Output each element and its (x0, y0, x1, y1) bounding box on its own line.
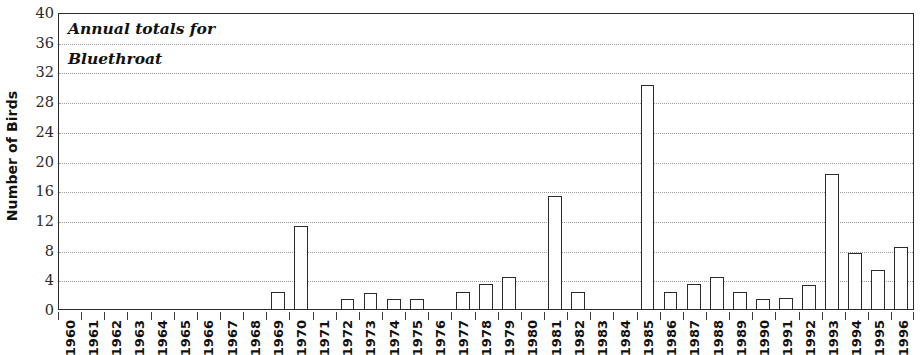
x-tick-label-text: 1971 (318, 320, 331, 355)
x-tick (428, 310, 451, 320)
x-tick (104, 310, 127, 320)
x-tick-label-text: 1974 (387, 320, 400, 355)
x-tick (81, 310, 104, 320)
bar (802, 285, 816, 310)
x-tick-label-text: 1967 (225, 320, 238, 355)
x-tick-label-text: 1991 (780, 320, 793, 355)
x-tick-label-text: 1978 (480, 320, 493, 355)
x-tick-label-text: 1986 (665, 320, 678, 355)
x-tick-label: 1977 (451, 320, 474, 355)
x-tick (660, 310, 683, 320)
x-tick-label: 1962 (104, 320, 127, 355)
bar (779, 298, 793, 309)
x-tick-label-text: 1969 (271, 320, 284, 355)
x-tick-label: 1966 (197, 320, 220, 355)
x-tick (475, 310, 498, 320)
bar (479, 284, 493, 309)
bar (894, 247, 908, 309)
x-tick-label: 1973 (359, 320, 382, 355)
bar-slot (613, 14, 636, 309)
x-tick-label-text: 1976 (433, 320, 446, 355)
bar-slot (590, 14, 613, 309)
x-tick-label-text: 1975 (410, 320, 423, 355)
bar (502, 277, 516, 309)
x-tick-label-text: 1994 (850, 320, 863, 355)
x-tick-label: 1980 (521, 320, 544, 355)
y-tick-label: 36 (36, 35, 54, 50)
x-tick-label: 1963 (127, 320, 150, 355)
y-axis-title: Number of Birds (0, 0, 24, 312)
x-tick-label-text: 1973 (364, 320, 377, 355)
x-tick-label-text: 1981 (549, 320, 562, 355)
bar (733, 292, 747, 309)
x-tick (451, 310, 474, 320)
x-tick-label-text: 1983 (595, 320, 608, 355)
x-tick-label: 1976 (428, 320, 451, 355)
x-tick (220, 310, 243, 320)
y-tick-label: 16 (36, 184, 54, 199)
y-tick-label: 32 (36, 65, 54, 80)
x-tick-label: 1981 (544, 320, 567, 355)
x-tick-label-text: 1979 (503, 320, 516, 355)
bar-slot (474, 14, 497, 309)
x-axis-ticks (58, 310, 914, 320)
x-tick-label-text: 1995 (873, 320, 886, 355)
x-tick (868, 310, 891, 320)
bar-slot (890, 14, 913, 309)
x-tick (799, 310, 822, 320)
x-tick (613, 310, 636, 320)
x-tick-label: 1964 (151, 320, 174, 355)
x-tick-label: 1968 (243, 320, 266, 355)
x-tick-label: 1991 (775, 320, 798, 355)
y-axis-title-label: Number of Birds (4, 91, 20, 221)
x-tick (891, 310, 914, 320)
bar-slot (544, 14, 567, 309)
bar-slot (751, 14, 774, 309)
x-tick-label-text: 1966 (202, 320, 215, 355)
y-tick-label: 40 (36, 6, 54, 21)
bar (364, 293, 378, 309)
x-tick-label: 1971 (313, 320, 336, 355)
y-tick-label: 20 (36, 154, 54, 169)
x-tick-label-text: 1965 (179, 320, 192, 355)
bar-slot (682, 14, 705, 309)
x-tick-label: 1965 (174, 320, 197, 355)
x-tick-label-text: 1980 (526, 320, 539, 355)
y-tick-label: 28 (36, 95, 54, 110)
x-tick (567, 310, 590, 320)
x-tick-label: 1992 (799, 320, 822, 355)
bar (387, 299, 401, 309)
x-tick-label-text: 1992 (804, 320, 817, 355)
bar (664, 292, 678, 309)
bar (341, 299, 355, 309)
x-tick-label: 1974 (382, 320, 405, 355)
x-tick-label-text: 1982 (572, 320, 585, 355)
x-tick-label: 1994 (845, 320, 868, 355)
x-tick (752, 310, 775, 320)
bar (548, 196, 562, 309)
x-tick (174, 310, 197, 320)
x-tick-label-text: 1984 (618, 320, 631, 355)
x-tick-label-text: 1985 (642, 320, 655, 355)
x-tick-label-text: 1960 (63, 320, 76, 355)
bar (871, 270, 885, 309)
y-tick-label: 0 (45, 303, 54, 318)
x-tick-label: 1960 (58, 320, 81, 355)
bar-slot (728, 14, 751, 309)
x-tick-label-text: 1963 (132, 320, 145, 355)
bar-slot (844, 14, 867, 309)
x-tick-label: 1987 (683, 320, 706, 355)
bluethroat-annual-totals-chart: Number of Birds 4036322824201612840 Annu… (0, 0, 922, 355)
x-tick (683, 310, 706, 320)
x-tick-label: 1986 (660, 320, 683, 355)
bar-slot (705, 14, 728, 309)
x-tick (127, 310, 150, 320)
x-tick (544, 310, 567, 320)
x-tick-label: 1984 (613, 320, 636, 355)
y-tick-label: 12 (36, 214, 54, 229)
x-tick (336, 310, 359, 320)
bar (410, 299, 424, 309)
bar (641, 85, 655, 309)
bar (848, 253, 862, 309)
x-tick (382, 310, 405, 320)
